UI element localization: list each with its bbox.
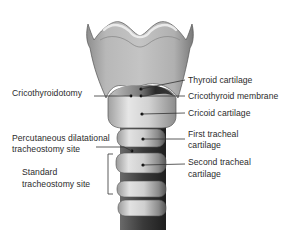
- label-cricothyroid-membrane: Cricothyroid membrane: [188, 91, 278, 102]
- label-first-tracheal-line1: First tracheal: [188, 129, 238, 140]
- label-second-tracheal-line1: Second tracheal: [188, 157, 251, 168]
- label-standard-line1: Standard: [22, 167, 57, 178]
- larynx-diagram: Thyroid cartilage Cricothyroid membrane …: [0, 0, 296, 235]
- label-standard-line2: tracheostomy site: [22, 179, 90, 190]
- trachea: [116, 120, 166, 230]
- label-percutaneous-line1: Percutaneous dilatational: [12, 133, 110, 144]
- label-second-tracheal-line2: cartilage: [188, 169, 221, 180]
- label-cricothyroidotomy: Cricothyroidotomy: [12, 88, 82, 99]
- larynx-illustration: [0, 0, 296, 235]
- label-thyroid-cartilage: Thyroid cartilage: [188, 75, 252, 86]
- label-percutaneous-line2: tracheostomy site: [12, 144, 80, 155]
- label-cricoid-cartilage: Cricoid cartilage: [188, 108, 250, 119]
- label-first-tracheal-line2: cartilage: [188, 140, 221, 151]
